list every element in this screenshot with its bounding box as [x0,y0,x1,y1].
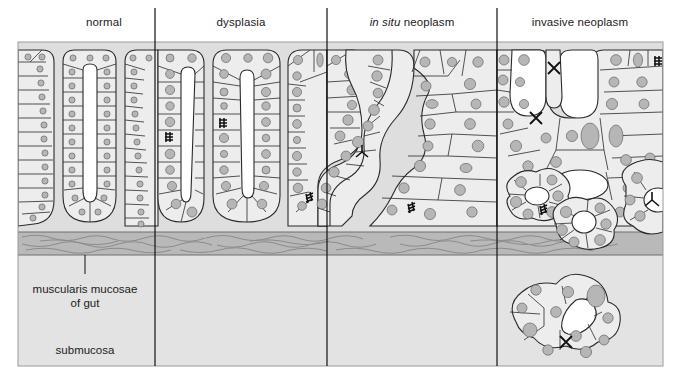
mitotic-figure-icon [165,132,173,142]
histology-figure: normal dysplasia in situ neoplasm invasi… [0,0,677,376]
mitotic-figure-icon [654,56,662,66]
annotation-muscularis-line2: of gut [33,297,138,311]
crypt-dysplasia-1 [158,50,204,222]
crypt-dysplasia-2 [213,50,280,222]
invasive-nest-4 [622,159,672,234]
panel-label-normal: normal [86,16,122,28]
panel-label-invasive-neoplasm: invasive neoplasm [532,16,628,28]
panel-label-in-situ-neoplasm: in situ neoplasm [370,16,455,28]
crypt-normal-2 [63,50,116,222]
panel-label-in-situ-italic: in situ [370,16,401,28]
panel-label-normal-text: normal [86,16,122,28]
panel-label-dysplasia: dysplasia [217,16,266,28]
crypt-normal-3 [122,50,158,227]
panel-label-in-situ-text: neoplasm [400,16,454,28]
panel-label-dysplasia-text: dysplasia [217,16,266,28]
crypt-normal-1 [18,50,54,226]
annotation-muscularis-mucosae: muscularis mucosae of gut [33,283,138,310]
normal-panel-crypts [18,50,158,227]
tumour-progression-diagram [0,0,677,376]
annotation-muscularis-line1: muscularis mucosae [33,283,138,297]
dysplasia-panel-crypts [158,50,327,226]
annotation-submucosa-text: submucosa [56,344,115,358]
annotation-submucosa: submucosa [56,344,115,358]
mitotic-figure-icon [219,118,227,128]
panel-label-invasive-text: invasive neoplasm [532,16,628,28]
